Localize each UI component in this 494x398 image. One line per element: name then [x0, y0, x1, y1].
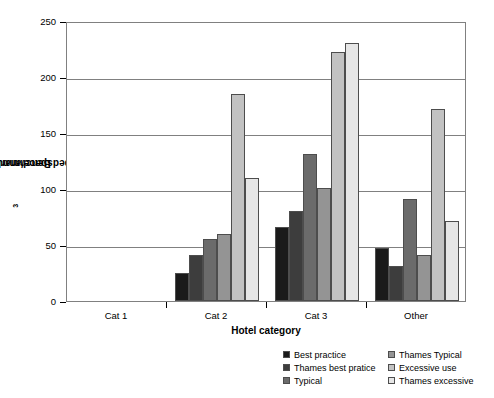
legend-item-label: Excessive use	[399, 363, 457, 373]
legend-column: Thames TypicalExcessive useThames excess…	[388, 349, 474, 386]
x-axis-tick-label: Cat 1	[66, 310, 166, 321]
bar	[245, 178, 259, 301]
legend-item[interactable]: Typical	[283, 375, 380, 386]
legend-swatch-icon	[283, 377, 290, 384]
bar	[431, 109, 445, 301]
y-axis-tick-label: 0	[16, 297, 56, 306]
legend: Best practiceThames best praticeTypicalT…	[283, 349, 488, 386]
plot-area	[66, 22, 466, 302]
bar-chart-figure: Benchmark (m3/bedspace/annum) 0501001502…	[0, 0, 494, 398]
x-axis-tick-label: Cat 3	[266, 310, 366, 321]
y-axis-title-exponent: 3	[12, 204, 19, 208]
bar	[317, 188, 331, 301]
bar	[445, 221, 459, 301]
x-axis-tick	[166, 302, 167, 308]
y-axis-tick	[60, 302, 66, 303]
y-axis-title: Benchmark (m3/bedspace/annum)	[10, 18, 26, 308]
legend-item-label: Typical	[294, 376, 322, 386]
bar-group	[75, 23, 159, 301]
y-axis-tick-label: 50	[16, 241, 56, 250]
legend-item[interactable]: Best practice	[283, 349, 380, 360]
bar-group	[175, 23, 259, 301]
bar	[217, 234, 231, 301]
y-axis-tick-label: 100	[16, 185, 56, 194]
y-axis-tick-label: 150	[16, 129, 56, 138]
x-axis-tick-label: Cat 2	[166, 310, 266, 321]
bar-group	[375, 23, 459, 301]
bar	[389, 266, 403, 301]
legend-item-label: Thames Typical	[399, 350, 462, 360]
bar	[289, 211, 303, 301]
y-axis-tick-label: 200	[16, 73, 56, 82]
y-axis-title-suffix: /bedspace/annum)	[0, 157, 74, 168]
bar-group	[275, 23, 359, 301]
bar	[231, 94, 245, 301]
legend-swatch-icon	[388, 364, 395, 371]
x-axis-tick-label: Other	[366, 310, 466, 321]
legend-item[interactable]: Excessive use	[388, 362, 474, 373]
legend-item[interactable]: Thames Typical	[388, 349, 474, 360]
bar	[175, 273, 189, 301]
bar	[403, 199, 417, 301]
bar	[303, 154, 317, 301]
legend-item-label: Best practice	[294, 350, 346, 360]
bar	[189, 255, 203, 301]
legend-column: Best practiceThames best praticeTypical	[283, 349, 380, 386]
bar	[417, 255, 431, 301]
bar	[331, 52, 345, 301]
legend-item-label: Thames excessive	[399, 376, 474, 386]
legend-swatch-icon	[283, 364, 290, 371]
bar	[345, 43, 359, 301]
x-axis-title: Hotel category	[66, 325, 466, 336]
bar	[203, 239, 217, 301]
legend-swatch-icon	[388, 377, 395, 384]
bar	[275, 227, 289, 301]
legend-swatch-icon	[283, 351, 290, 358]
x-axis-tick	[366, 302, 367, 308]
legend-swatch-icon	[388, 351, 395, 358]
y-axis-tick-label: 250	[16, 17, 56, 26]
legend-item[interactable]: Thames best pratice	[283, 362, 380, 373]
legend-item-label: Thames best pratice	[294, 363, 376, 373]
legend-item[interactable]: Thames excessive	[388, 375, 474, 386]
bar	[375, 248, 389, 301]
x-axis-tick	[266, 302, 267, 308]
